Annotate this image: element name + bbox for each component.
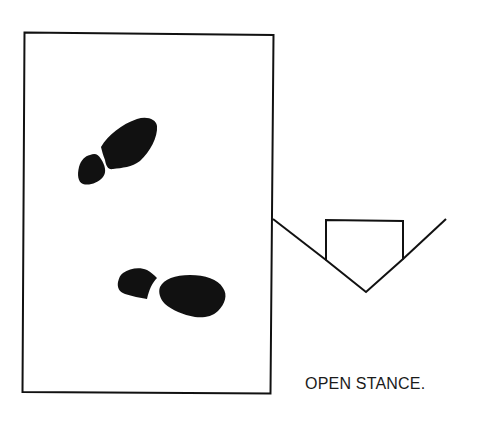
back-foot-sole xyxy=(159,275,225,317)
right-foul-line xyxy=(403,219,446,259)
home-plate xyxy=(326,220,403,292)
front-foot-heel xyxy=(78,154,105,185)
front-footprint xyxy=(78,118,157,185)
left-foul-line xyxy=(273,219,326,260)
front-foot-sole xyxy=(101,118,157,169)
open-stance-diagram xyxy=(0,0,491,426)
diagram-caption: OPEN STANCE. xyxy=(305,375,425,393)
back-footprint xyxy=(118,268,226,317)
back-foot-heel xyxy=(118,268,157,299)
batters-box xyxy=(23,33,274,394)
home-plate-area xyxy=(273,219,446,292)
